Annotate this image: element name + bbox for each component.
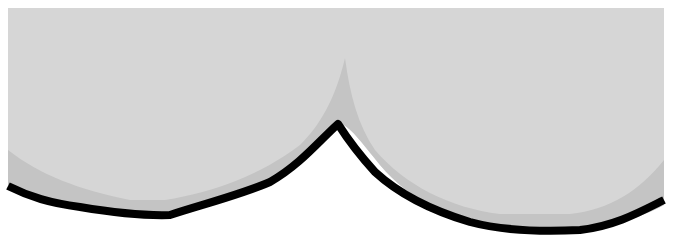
scallop-diagram [0, 0, 673, 237]
